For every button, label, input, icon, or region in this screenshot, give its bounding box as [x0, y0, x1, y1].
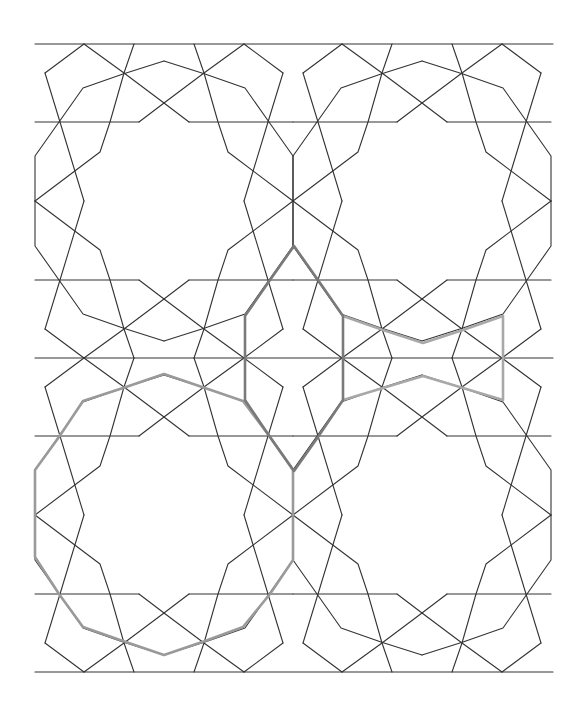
pattern-line	[45, 44, 84, 73]
pattern-line	[35, 61, 164, 201]
pattern-line	[303, 329, 342, 358]
pattern-line	[293, 515, 422, 655]
pattern-line	[342, 280, 447, 358]
pattern-line	[164, 515, 293, 655]
pattern-line	[293, 61, 422, 201]
pattern-line	[303, 515, 342, 643]
pattern-line	[422, 201, 551, 341]
pattern-line	[45, 643, 84, 672]
pattern-line	[244, 329, 283, 358]
pattern-line	[45, 329, 84, 358]
pattern-line	[244, 643, 283, 672]
pattern-line	[502, 201, 541, 329]
pattern-line	[244, 44, 283, 73]
pattern-line	[303, 643, 342, 672]
pattern-line	[502, 643, 541, 672]
pattern-line	[303, 44, 342, 73]
pattern-line	[422, 61, 551, 201]
pattern-line	[397, 358, 502, 436]
pattern-line	[164, 201, 293, 341]
pattern-lines	[35, 44, 553, 672]
pattern-line	[244, 515, 283, 643]
pattern-line	[84, 44, 189, 122]
pattern-line	[45, 201, 84, 329]
pattern-line	[502, 44, 541, 73]
pattern-line	[342, 358, 447, 436]
pattern-line	[342, 44, 447, 122]
pattern-line	[35, 201, 164, 341]
pattern-line	[139, 280, 244, 358]
pattern-line	[303, 358, 342, 387]
geometric-pattern	[0, 0, 585, 708]
pattern-line	[397, 44, 502, 122]
pattern-line	[164, 61, 293, 201]
pattern-line	[45, 358, 84, 387]
pattern-line	[502, 329, 541, 358]
pattern-line	[422, 515, 551, 655]
pattern-line	[244, 73, 283, 201]
pattern-line	[397, 280, 502, 358]
pattern-line	[45, 73, 84, 201]
pattern-line	[502, 358, 541, 387]
pattern-line	[84, 280, 189, 358]
pattern-line	[84, 358, 189, 436]
pattern-line	[502, 387, 541, 515]
pattern-line	[397, 594, 502, 672]
pattern-line	[244, 358, 283, 387]
pattern-line	[502, 73, 541, 201]
pattern-line	[342, 594, 447, 672]
pattern-line	[303, 73, 342, 201]
pattern-line	[45, 515, 84, 643]
pattern-line	[139, 44, 244, 122]
pattern-line	[502, 515, 541, 643]
